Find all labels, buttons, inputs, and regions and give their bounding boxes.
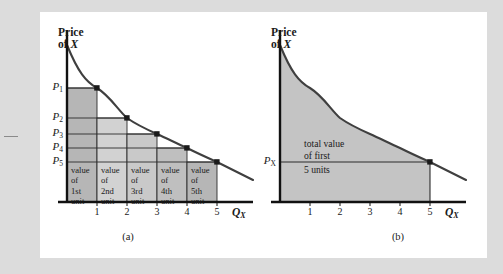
panel-a-y-axis-title-line2: of X [58, 38, 84, 50]
panel-b-y-axis-title-prefix: of [271, 38, 283, 50]
panel-b-x-axis-title: QX [445, 206, 459, 219]
unit-box-1-line3: 1st [71, 186, 90, 196]
price-label-p5: P5 [46, 155, 63, 167]
unit-box-2-line3: 2nd [101, 186, 120, 196]
price-label-p1-sub: 1 [59, 85, 63, 94]
total-value-annotation-upper: total value of first [304, 138, 344, 161]
unit-box-5-line3: 5th [191, 186, 210, 196]
panel-a-y-axis-title-prefix: of [58, 38, 70, 50]
price-label-p1: P1 [46, 81, 63, 93]
unit-box-2-line4: unit [101, 196, 120, 206]
panel-b-y-axis-title-var: X [283, 38, 291, 50]
price-label-p3: P3 [46, 127, 63, 139]
panel-a: Price of X P1 P2 P3 P4 P5 value of 1st u… [40, 12, 270, 258]
unit-box-4: value of 4th unit [161, 165, 180, 207]
x-tick-label-b-3: 3 [363, 207, 377, 218]
panel-a-x-axis-title-sub: X [240, 211, 245, 220]
price-label-px: PX [258, 155, 276, 167]
price-label-p4-sub: 4 [59, 145, 63, 154]
unit-box-5-line2: of [191, 175, 210, 185]
panel-b-x-axis-title-sub: X [453, 211, 458, 220]
unit-box-3-line4: unit [131, 196, 150, 206]
x-tick-label-b-5: 5 [423, 207, 437, 218]
panel-b: Price of X PX total value of first 5 uni… [246, 12, 487, 258]
x-tick-label-b-2: 2 [333, 207, 347, 218]
x-tick-label-b-4: 4 [393, 207, 407, 218]
x-tick-label-a-3: 3 [150, 207, 164, 218]
panel-a-x-axis-title: QX [232, 206, 246, 219]
unit-box-2: value of 2nd unit [101, 165, 120, 207]
panel-b-y-axis-title-line1: Price [271, 26, 297, 38]
total-value-annotation-lower: 5 units [304, 164, 330, 176]
price-label-p2: P2 [46, 111, 63, 123]
price-label-p4: P4 [46, 141, 63, 153]
x-tick-label-a-4: 4 [180, 207, 194, 218]
unit-box-5-line4: unit [191, 196, 210, 206]
unit-box-4-line4: unit [161, 196, 180, 206]
curve-marker-point-b [427, 159, 432, 164]
panel-b-y-axis-title: Price of X [271, 26, 297, 51]
unit-box-3: value of 3rd unit [131, 165, 150, 207]
price-label-p3-sub: 3 [59, 131, 63, 140]
panel-b-y-axis-title-line2: of X [271, 38, 297, 50]
margin-tick-mark [4, 136, 18, 137]
unit-box-5-line1: value [191, 165, 210, 175]
x-tick-label-b-1: 1 [303, 207, 317, 218]
price-label-p2-sub: 2 [59, 115, 63, 124]
unit-box-1-line1: value [71, 165, 90, 175]
total-value-annotation-line1: total value [304, 138, 344, 150]
unit-box-2-line1: value [101, 165, 120, 175]
total-value-annotation-line2: of first [304, 150, 344, 162]
unit-box-4-line3: 4th [161, 186, 180, 196]
x-tick-label-a-5: 5 [210, 207, 224, 218]
x-tick-label-a-1: 1 [90, 207, 104, 218]
price-label-px-sub: X [271, 159, 276, 168]
unit-box-5: value of 5th unit [191, 165, 210, 207]
unit-box-3-line3: 3rd [131, 186, 150, 196]
figure-content-panel: Price of X P1 P2 P3 P4 P5 value of 1st u… [40, 12, 487, 258]
price-label-p5-sub: 5 [59, 159, 63, 168]
unit-box-1: value of 1st unit [71, 165, 90, 207]
caption-a: (a) [108, 231, 148, 242]
unit-box-1-line2: of [71, 175, 90, 185]
unit-box-1-line4: unit [71, 196, 90, 206]
unit-box-4-line2: of [161, 175, 180, 185]
caption-b: (b) [378, 231, 418, 242]
unit-box-3-line1: value [131, 165, 150, 175]
total-value-shaded-area [280, 45, 430, 202]
price-label-px-base: P [264, 154, 271, 166]
unit-box-4-line1: value [161, 165, 180, 175]
panel-a-y-axis-title-line1: Price [58, 26, 84, 38]
unit-box-2-line2: of [101, 175, 120, 185]
panel-a-y-axis-title: Price of X [58, 26, 84, 51]
x-tick-label-a-2: 2 [120, 207, 134, 218]
unit-box-3-line2: of [131, 175, 150, 185]
panel-a-y-axis-title-var: X [70, 38, 78, 50]
figure-root: Price of X P1 P2 P3 P4 P5 value of 1st u… [0, 0, 503, 274]
